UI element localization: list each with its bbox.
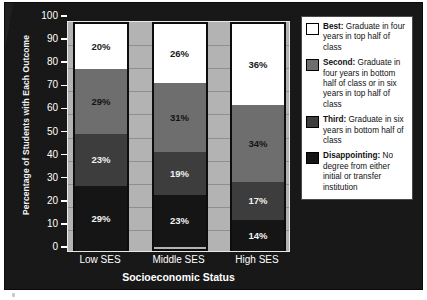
bar-segment-value-label: 23%	[170, 216, 189, 226]
stacked-bar[interactable]: 20%29%23%29%	[73, 22, 129, 251]
legend-label-disappointing: Disappointing: No degree from either ini…	[323, 151, 407, 193]
y-axis-ticks: 0102030405060708090100	[0, 21, 67, 252]
y-axis-tick-label: 10	[47, 219, 61, 229]
bar-segment-disappointing[interactable]: 29%	[75, 186, 127, 251]
y-axis-tick-label: 80	[47, 57, 61, 67]
bar-segment-second[interactable]: 29%	[75, 69, 127, 134]
y-axis-tick-label: 30	[47, 173, 61, 183]
legend-item-best[interactable]: Best: Graduate in four years in top half…	[306, 22, 407, 53]
legend-label-name: Third:	[323, 115, 346, 124]
bar-group: 20%29%23%29%26%31%19%23%36%34%17%14%	[68, 22, 289, 251]
plot-area: 20%29%23%29%26%31%19%23%36%34%17%14%	[67, 21, 290, 252]
y-axis-tick-mark	[61, 15, 67, 17]
legend-swatch-best	[306, 23, 319, 35]
bar-segment-value-label: 36%	[248, 60, 267, 70]
legend-item-second[interactable]: Second: Graduate in four years in bottom…	[306, 58, 407, 110]
bar-segment-value-label: 26%	[170, 49, 189, 59]
bar-segment-best[interactable]: 36%	[232, 24, 284, 105]
bar-segment-value-label: 20%	[91, 42, 110, 52]
stacked-bar-chart-figure: Percentage of Students with Each Outcome…	[0, 0, 427, 300]
bar-segment-value-label: 23%	[91, 155, 110, 165]
x-axis-tick-label: Middle SES	[134, 254, 224, 265]
bar-segment-value-label: 14%	[248, 231, 267, 241]
y-axis-tick-label: 100	[41, 11, 61, 21]
x-axis-title: Socioeconomic Status	[67, 271, 290, 283]
legend-label-name: Best:	[323, 22, 343, 31]
bar-segment-value-label: 19%	[170, 169, 189, 179]
bar-segment-third[interactable]: 17%	[232, 182, 284, 220]
y-axis-tick-label: 50	[47, 127, 61, 137]
legend-item-third[interactable]: Third: Graduate in six years in bottom h…	[306, 115, 407, 146]
bar-segment-best[interactable]: 26%	[154, 24, 206, 83]
bar-segment-value-label: 17%	[248, 196, 267, 206]
bar-segment-second[interactable]: 31%	[154, 83, 206, 153]
y-axis-tick-label: 60	[47, 103, 61, 113]
bar-segment-value-label: 29%	[91, 97, 110, 107]
stacked-bar[interactable]: 26%31%19%23%	[152, 22, 208, 251]
bar-segment-third[interactable]: 23%	[75, 134, 127, 186]
y-axis-tick-label: 40	[47, 150, 61, 160]
scan-speckle	[12, 293, 15, 297]
legend-label-best: Best: Graduate in four years in top half…	[323, 22, 407, 53]
x-axis-tick-label: High SES	[212, 254, 302, 265]
legend-swatch-disappointing	[306, 152, 319, 164]
y-axis-tick-label: 20	[47, 196, 61, 206]
x-axis-tick-labels: Low SESMiddle SESHigh SES	[67, 254, 290, 270]
legend-label-name: Second:	[323, 58, 355, 67]
legend-label-third: Third: Graduate in six years in bottom h…	[323, 115, 407, 146]
y-axis-tick-label: 0	[52, 242, 61, 252]
bar-segment-value-label: 31%	[170, 113, 189, 123]
bar-segment-value-label: 29%	[91, 214, 110, 224]
bar-segment-best[interactable]: 20%	[75, 24, 127, 69]
legend-label-second: Second: Graduate in four years in bottom…	[323, 58, 407, 110]
bar-segment-second[interactable]: 34%	[232, 105, 284, 182]
legend-item-disappointing[interactable]: Disappointing: No degree from either ini…	[306, 151, 407, 193]
y-axis-tick-label: 90	[47, 34, 61, 44]
legend-swatch-second	[306, 59, 319, 71]
legend: Best: Graduate in four years in top half…	[301, 16, 413, 200]
legend-swatch-third	[306, 116, 319, 128]
legend-label-name: Disappointing:	[323, 151, 380, 160]
bar-segment-disappointing[interactable]: 23%	[154, 195, 206, 247]
y-axis-tick-label: 70	[47, 80, 61, 90]
bar-segment-third[interactable]: 19%	[154, 152, 206, 195]
x-axis-tick-label: Low SES	[55, 254, 145, 265]
stacked-bar[interactable]: 36%34%17%14%	[230, 22, 286, 251]
bar-segment-value-label: 34%	[248, 139, 267, 149]
bar-segment-disappointing[interactable]: 14%	[232, 220, 284, 252]
